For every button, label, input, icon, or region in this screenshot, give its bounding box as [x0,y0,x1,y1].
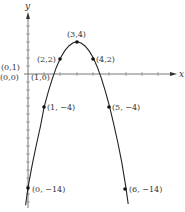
y-axis-label: y [24,1,31,11]
point-3-4 [75,40,79,44]
parabola-curve [26,42,129,206]
label-0-0: (0,0) [0,73,19,82]
label-3-4: (3,4) [67,30,86,39]
label-0-1: (0,1) [1,63,20,72]
label-2-2: (2,2) [37,55,56,64]
label-6-m14: (6, −14) [129,185,162,194]
label-0-m14: (0, −14) [32,185,65,194]
point-2-2 [58,57,62,61]
point-1-m4 [42,105,46,109]
parabola-graph: y x [0,0,185,212]
point-5-m4 [107,105,111,109]
x-axis-arrow-icon [170,72,177,76]
label-1-0: (1,0) [31,73,50,82]
y-axis-arrow-icon [26,12,30,19]
point-4-2 [91,57,95,61]
point-0-m14 [26,186,30,190]
label-5-m4: (5, −4) [112,103,140,112]
x-axis-label: x [179,69,184,79]
point-6-m14 [123,187,127,191]
label-1-m4: (1, −4) [47,103,75,112]
label-4-2: (4,2) [96,55,115,64]
